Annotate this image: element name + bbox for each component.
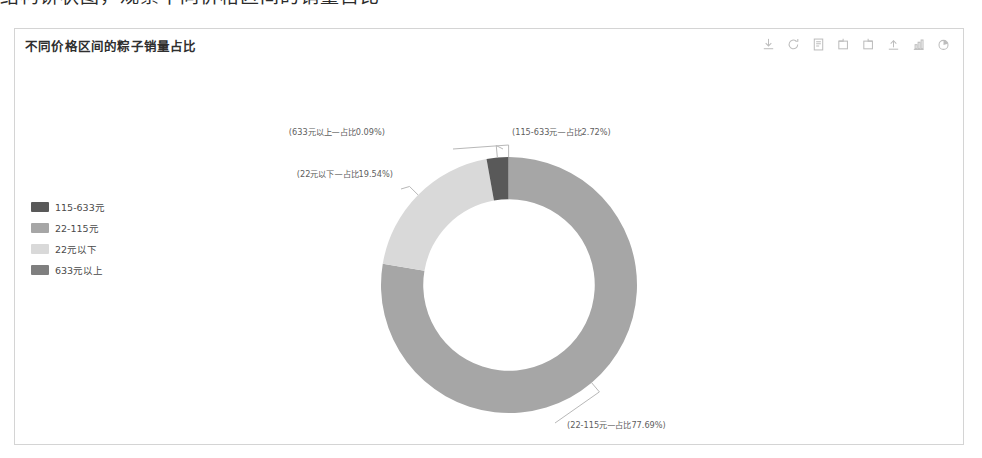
donut-data-label: (22-115元—占比77.69%) bbox=[567, 420, 666, 430]
donut-data-label: (22元以下—占比19.54%) bbox=[297, 169, 393, 179]
donut-chart-svg: (633元以上—占比0.09%)(115-633元—占比2.72%)(22元以下… bbox=[15, 29, 963, 444]
donut-data-label: (115-633元—占比2.72%) bbox=[512, 127, 611, 137]
leader-line bbox=[401, 186, 418, 194]
leader-line bbox=[496, 146, 503, 158]
chart-panel: 不同价格区间的粽子销量占比 bbox=[14, 28, 964, 445]
donut-slices bbox=[381, 157, 637, 413]
donut-chart: (633元以上—占比0.09%)(115-633元—占比2.72%)(22元以下… bbox=[15, 29, 963, 444]
donut-slice[interactable] bbox=[383, 159, 494, 271]
leader-line bbox=[453, 145, 509, 157]
top-cut-text: 结构饼状图，观察不同价格区间的销量占比 bbox=[0, 0, 380, 8]
top-cut-text-strip: 结构饼状图，观察不同价格区间的销量占比 bbox=[0, 0, 982, 20]
donut-data-label: (633元以上—占比0.09%) bbox=[289, 127, 385, 137]
